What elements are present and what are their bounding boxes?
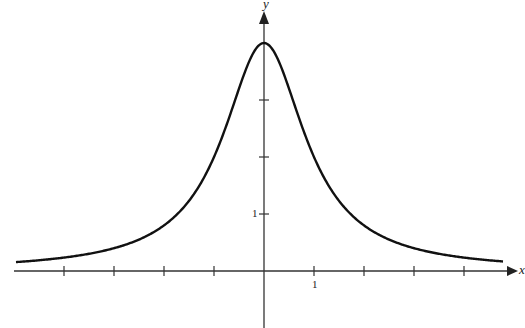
curve-line bbox=[16, 43, 503, 262]
axes bbox=[14, 11, 518, 328]
x-tick-label-1: 1 bbox=[312, 278, 318, 290]
y-tick-label-1: 1 bbox=[252, 207, 258, 219]
x-axis-arrow-icon bbox=[507, 266, 518, 276]
y-axis-arrow-icon bbox=[259, 11, 269, 24]
y-axis-label: y bbox=[263, 0, 269, 12]
x-axis-label: x bbox=[519, 262, 525, 278]
